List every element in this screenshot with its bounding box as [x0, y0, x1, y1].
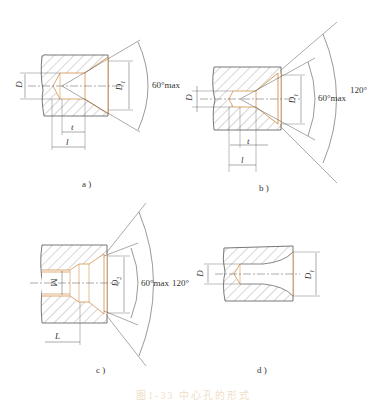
dim-t-label-a: t	[71, 123, 74, 132]
panel-label-b: b )	[259, 184, 269, 193]
figure-caption: 图1-33 中心孔的形式	[0, 387, 387, 402]
angle-label-60max-a: 60°max	[152, 81, 180, 90]
dim-l-label-b: l	[241, 156, 244, 165]
dim-d2-label-c: D2	[111, 277, 122, 287]
dim-l-label-a: l	[66, 138, 69, 147]
angle-label-60max-c: 60°max	[141, 279, 169, 288]
dim-l-label-c: L	[55, 332, 60, 341]
dim-d-label-d: D	[196, 270, 205, 277]
panel-label-d: d )	[257, 366, 267, 375]
angle-label-120-c: 120°	[172, 279, 189, 288]
dim-d1-label-b: D1	[288, 94, 299, 104]
dim-d1-label-d: D1	[304, 270, 315, 280]
dim-t-label-b: t	[247, 137, 250, 146]
angle-label-120-b: 120°	[350, 86, 367, 95]
dim-d-label-a: D	[15, 81, 24, 88]
angle-label-60max-b: 60°max	[318, 94, 346, 103]
panel-b-drawing	[192, 22, 337, 183]
dim-d1-label-a: D1	[115, 81, 126, 91]
panel-label-a: a )	[82, 180, 91, 189]
panel-label-c: c )	[96, 366, 105, 375]
dim-d-label-b: D	[185, 94, 194, 101]
dim-m-label-c: M	[49, 278, 58, 286]
panel-a-drawing	[20, 40, 148, 150]
